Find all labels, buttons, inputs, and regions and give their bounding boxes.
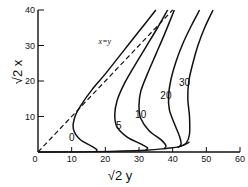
reference-line-label: x=y (98, 37, 112, 46)
curve-label-10: 10 (135, 109, 147, 120)
y-tick-label: 40 (25, 5, 35, 15)
x-tick-label: 10 (67, 154, 77, 164)
x-tick-label: 60 (235, 154, 245, 164)
ticks: 010203040506010203040 (25, 5, 245, 164)
curve-0 (73, 10, 156, 152)
baseline-curve (38, 142, 190, 152)
y-tick-label: 30 (25, 41, 35, 51)
labels: 05102030 (69, 77, 191, 142)
chart: 010203040506010203040 x=y 05102030 √2 y … (0, 0, 248, 187)
curve-5 (115, 10, 168, 150)
x-tick-label: 50 (201, 154, 211, 164)
reference-line-x-equals-y (38, 10, 173, 152)
curve-label-5: 5 (116, 120, 122, 131)
x-tick-label: 20 (100, 154, 110, 164)
x-tick-label: 30 (134, 154, 144, 164)
y-tick-label: 10 (25, 112, 35, 122)
x-axis-title: √2 y (108, 168, 133, 183)
reference-line: x=y (38, 10, 173, 152)
curve-label-30: 30 (179, 77, 191, 88)
y-axis-title: √2 x (10, 59, 25, 84)
x-tick-label: 40 (168, 154, 178, 164)
x-tick-label: 0 (32, 154, 37, 164)
curve-label-20: 20 (160, 90, 172, 101)
curve-10 (139, 10, 174, 148)
y-tick-label: 20 (25, 76, 35, 86)
curve-label-0: 0 (69, 132, 75, 143)
